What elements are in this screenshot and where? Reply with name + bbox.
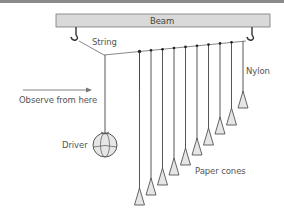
driver-label: Driver [62,140,88,150]
paper-cones [135,91,249,205]
hook-right-icon [247,27,254,40]
beam-label: Beam [0,16,284,26]
cone-2 [146,178,156,195]
cone-4 [169,158,179,175]
hook-left-icon [71,27,78,40]
cone-3 [158,168,168,185]
nylon-label: Nylon [246,66,270,76]
pendulum-diagram [0,0,284,213]
cone-8 [215,117,225,134]
paper-cones-label: Paper cones [195,166,246,176]
cone-10 [238,91,248,108]
observe-label: Observe from here [19,95,97,105]
string-label: String [92,37,117,47]
observe-arrow-icon [23,88,92,93]
cone-5 [181,148,191,165]
cone-6 [192,138,202,155]
cone-1 [135,188,145,205]
cone-7 [204,128,214,145]
driver-ball-icon [93,132,117,157]
cone-9 [227,108,237,125]
